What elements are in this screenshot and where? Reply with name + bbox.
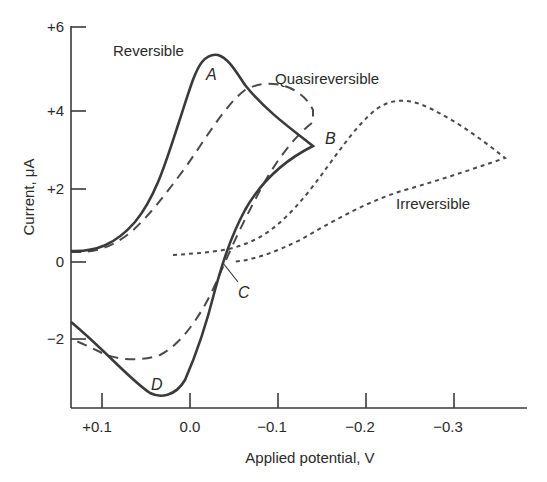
y-tick-label: 0: [56, 253, 64, 270]
x-tick-label: −0.2: [345, 418, 375, 435]
point-label-c: C: [238, 284, 250, 301]
x-tick-label: −0.1: [257, 418, 287, 435]
irreversible-label: Irreversible: [396, 195, 470, 212]
y-tick-label: −2: [47, 330, 64, 347]
x-axis-title: Applied potential, V: [245, 449, 374, 466]
quasireversible-label: Quasireversible: [275, 70, 379, 87]
cyclic-voltammogram-chart: +6 +4 +2 0 −2 +0.1 0.0 −0.1 −0.2 −0.3 Ap…: [0, 0, 547, 482]
x-tick-label: 0.0: [180, 418, 201, 435]
x-tick-labels: +0.1 0.0 −0.1 −0.2 −0.3: [82, 418, 463, 435]
x-tick-label: +0.1: [82, 418, 112, 435]
reversible-curve: [71, 55, 313, 396]
quasireversible-curve: [71, 84, 313, 360]
point-c-leader-line: [223, 263, 238, 282]
y-axis-title: Current, μA: [20, 159, 37, 236]
point-label-a: A: [205, 66, 217, 83]
point-label-b: B: [325, 130, 336, 147]
y-tick-label: +4: [47, 102, 64, 119]
x-tick-label: −0.3: [433, 418, 463, 435]
y-tick-labels: +6 +4 +2 0 −2: [47, 18, 64, 347]
irreversible-curve: [173, 101, 505, 262]
reversible-label: Reversible: [113, 42, 184, 59]
y-tick-label: +2: [47, 180, 64, 197]
point-label-d: D: [151, 376, 163, 393]
y-tick-label: +6: [47, 18, 64, 35]
